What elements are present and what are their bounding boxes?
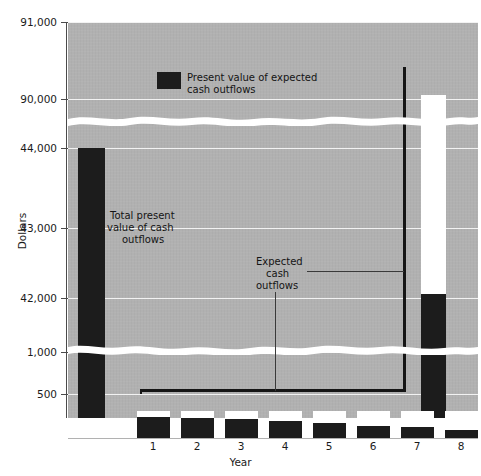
xtick-label-1: 1 bbox=[135, 440, 171, 452]
bar-total-present-value bbox=[78, 148, 105, 418]
annotation-expected-line-1: Expected bbox=[256, 256, 303, 269]
ytick-label-91000: 91,000 bbox=[20, 17, 57, 28]
annotation-expected-line-3: outflows bbox=[256, 280, 298, 293]
bar-year-2-pv bbox=[181, 418, 214, 438]
y-axis-spine bbox=[66, 22, 67, 418]
ytick-label-500: 500 bbox=[37, 389, 57, 400]
xtick-label-2: 2 bbox=[179, 440, 215, 452]
baseline-trim bbox=[68, 438, 478, 439]
legend-swatch-present-value bbox=[157, 72, 181, 89]
bar-year-8-pv bbox=[445, 430, 478, 438]
x-axis-title: Year bbox=[0, 456, 481, 468]
annotation-total-pv-line-1: Total present bbox=[110, 210, 175, 223]
gridline-91000 bbox=[68, 22, 478, 23]
xtick-label-8: 8 bbox=[443, 440, 479, 452]
annotation-total-pv-line-3: outflows bbox=[122, 234, 164, 247]
bar-year-4-pv bbox=[269, 421, 302, 438]
bracket-horizontal bbox=[140, 389, 406, 392]
gridline-44000 bbox=[68, 148, 478, 149]
xtick-label-6: 6 bbox=[355, 440, 391, 452]
ytick-label-42000: 42,000 bbox=[20, 293, 57, 304]
y-axis-title: Dollars bbox=[16, 201, 28, 261]
xtick-label-3: 3 bbox=[223, 440, 259, 452]
ytick-label-90000: 90,000 bbox=[20, 94, 57, 105]
bar-year-3-pv bbox=[225, 419, 258, 438]
gridline-500 bbox=[68, 394, 478, 395]
gridline-1000 bbox=[68, 352, 478, 353]
xtick-label-4: 4 bbox=[267, 440, 303, 452]
bar-year-1-pv bbox=[137, 417, 170, 438]
bracket-left-cap bbox=[140, 389, 142, 394]
annotation-expected-line-2: cash bbox=[266, 268, 289, 281]
bar-year-7-pv bbox=[401, 427, 434, 438]
xtick-label-7: 7 bbox=[399, 440, 435, 452]
leader-line-expected-horizontal bbox=[307, 271, 404, 272]
annotation-total-pv-line-2: value of cash bbox=[107, 222, 173, 235]
legend-label-line-1: Present value of expected bbox=[187, 72, 317, 85]
ytick-label-1000: 1,000 bbox=[27, 347, 57, 358]
bar-total-expected-outflows bbox=[421, 95, 446, 294]
bracket-vertical bbox=[403, 67, 406, 392]
bar-year-5-pv bbox=[313, 423, 346, 438]
ytick-label-44000: 44,000 bbox=[20, 143, 57, 154]
xtick-label-5: 5 bbox=[311, 440, 347, 452]
chart-figure: 91,000 90,000 44,000 43,000 42,000 1,000… bbox=[0, 0, 481, 476]
leader-line-expected-vertical bbox=[275, 292, 276, 391]
bar-total-expected-present-value bbox=[421, 294, 446, 418]
gridline-42000 bbox=[68, 298, 478, 299]
legend-label-line-2: cash outflows bbox=[187, 84, 256, 97]
bar-year-6-pv bbox=[357, 426, 390, 438]
gridline-90000 bbox=[68, 99, 478, 100]
